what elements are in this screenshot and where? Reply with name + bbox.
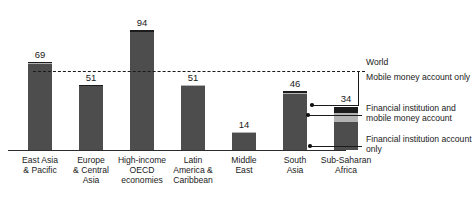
leader-dot-mobile-money-only	[310, 103, 314, 107]
leader-dot-financial-only	[308, 144, 312, 148]
legend-label-financial-and-mobile: Financial institution and mobile money a…	[366, 103, 472, 124]
legend-label-world: World	[366, 57, 472, 67]
leader-line-mobile-money-only-vertical	[358, 72, 359, 106]
leader-line-mobile-money-only	[313, 105, 359, 106]
leader-line-financial-only	[312, 146, 362, 147]
legend-label-financial-only: Financial institution account only	[366, 134, 472, 155]
leader-dot-financial-and-mobile	[306, 113, 310, 117]
leader-line-financial-and-mobile	[310, 115, 362, 116]
legend-label-mobile-money-only: Mobile money account only	[366, 72, 472, 82]
